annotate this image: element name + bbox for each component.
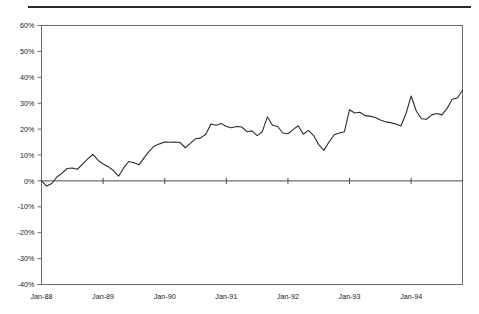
x-axis-tick-label: Jan-91 [215,292,237,301]
y-axis-tick-labels: 60%50%40%30%20%10%0%-10%-20%-30%-40% [18,21,35,289]
x-axis-tick-label: Jan-90 [154,292,176,301]
y-axis-tick-label: -20% [18,228,35,237]
line-chart: 60%50%40%30%20%10%0%-10%-20%-30%-40% Jan… [0,0,479,314]
x-axis-tick-label: Jan-89 [92,292,114,301]
y-axis-tick-label: -10% [18,202,35,211]
chart-figure: 60%50%40%30%20%10%0%-10%-20%-30%-40% Jan… [0,0,479,314]
y-axis-tick-label: -30% [18,254,35,263]
y-axis-tick-label: 0% [24,177,35,186]
y-axis-tick-label: 10% [20,151,35,160]
y-axis-tick-label: 50% [20,47,35,56]
y-axis-tick-label: 20% [20,125,35,134]
x-axis-tick-label: Jan-88 [31,292,53,301]
y-axis-tick-label: 30% [20,99,35,108]
data-series-line [42,90,463,186]
y-axis-tick-marks [38,26,42,285]
plot-area-border [42,26,463,285]
y-axis-tick-label: -40% [18,280,35,289]
x-axis-tick-label: Jan-92 [277,292,299,301]
x-axis-tick-label: Jan-93 [339,292,361,301]
x-axis-tick-label: Jan-94 [400,292,422,301]
x-axis-tick-labels: Jan-88Jan-89Jan-90Jan-91Jan-92Jan-93Jan-… [31,292,423,301]
y-axis-tick-label: 40% [20,73,35,82]
y-axis-tick-label: 60% [20,21,35,30]
